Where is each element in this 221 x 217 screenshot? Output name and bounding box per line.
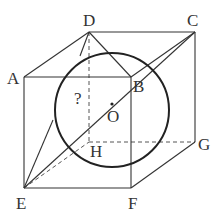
label-H: H (90, 142, 102, 161)
label-D: D (83, 11, 95, 30)
edge-FG (131, 142, 195, 188)
label-A: A (7, 69, 20, 88)
label-E: E (16, 194, 26, 213)
edge-AD (24, 32, 89, 77)
label-F: F (128, 194, 137, 213)
center-point-O (110, 102, 113, 105)
diagram-canvas: D C A B H G E F O ? (0, 0, 221, 217)
unknown-marker: ? (74, 89, 82, 108)
label-O: O (107, 107, 119, 126)
label-B: B (133, 77, 144, 96)
label-C: C (187, 11, 198, 30)
label-G: G (198, 135, 210, 154)
cube-sphere-diagram: D C A B H G E F O ? (0, 0, 221, 217)
edge-BC (131, 32, 195, 77)
